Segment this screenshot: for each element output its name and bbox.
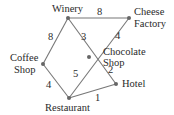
weight-restaurant-hotel: 1 [95, 92, 100, 103]
weight-chocolate-hotel: 2 [108, 64, 113, 75]
label-chocolate-shop-line1: Chocolate [103, 46, 146, 57]
weight-restaurant-chocolate: 5 [73, 68, 78, 79]
weight-winery-cheese: 8 [97, 6, 102, 17]
node-winery [66, 16, 70, 20]
label-cheese-factory-line1: Cheese [134, 6, 165, 17]
node-hotel [114, 82, 118, 86]
edge-winery-coffee [43, 18, 68, 64]
weight-winery-chocolate: 3 [81, 31, 86, 42]
label-winery: Winery [52, 3, 84, 14]
label-restaurant: Restaurant [45, 102, 90, 113]
edge-restaurant-hotel [69, 84, 116, 98]
label-coffee-shop-line2: Shop [14, 64, 36, 75]
node-chocolate-shop [87, 55, 91, 59]
label-coffee-shop-line1: Coffee [10, 52, 39, 63]
weight-cheese-chocolate: 4 [115, 30, 121, 41]
weight-winery-coffee: 8 [48, 31, 53, 42]
label-hotel: Hotel [122, 78, 145, 89]
node-cheese-factory [127, 16, 131, 20]
label-chocolate-shop-line2: Shop [103, 57, 125, 68]
label-cheese-factory-line2: Factory [134, 18, 167, 29]
node-restaurant [67, 96, 71, 100]
graph-diagram: Winery Cheese Factory Chocolate Shop Cof… [0, 0, 174, 115]
node-coffee-shop [41, 62, 45, 66]
weight-coffee-restaurant: 4 [46, 79, 52, 90]
